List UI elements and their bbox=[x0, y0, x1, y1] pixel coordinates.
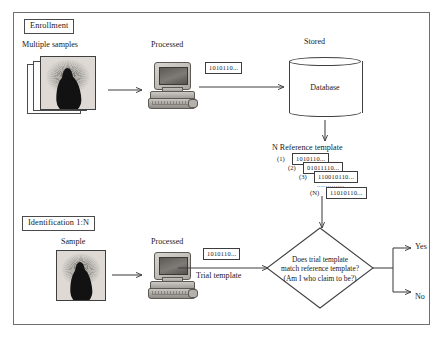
trial-template-binary: 1010110... bbox=[203, 248, 240, 260]
reference-row-index-2: (2) bbox=[288, 165, 296, 172]
multiple-samples-image-stack bbox=[27, 56, 99, 118]
trial-template-caption: Trial template bbox=[196, 272, 241, 280]
monitor-shell bbox=[154, 252, 192, 280]
decision-text-line-2: match reference template? bbox=[281, 265, 359, 272]
identification-sample-caption: Sample bbox=[61, 238, 85, 246]
multiple-samples-caption: Multiple samples bbox=[22, 41, 78, 49]
identification-processed-caption: Processed bbox=[151, 238, 183, 246]
monitor-screen bbox=[159, 67, 187, 86]
enrollment-section-label: Enrollment bbox=[24, 19, 74, 34]
reference-template-heading: N Reference template bbox=[272, 144, 343, 152]
database-label: Database bbox=[289, 83, 361, 92]
reference-template-value-n: 11010110... bbox=[326, 187, 367, 199]
decision-text-line-1: Does trial template bbox=[292, 256, 348, 263]
identification-computer-icon bbox=[148, 252, 196, 302]
decision-yes-label: Yes bbox=[415, 243, 427, 251]
identification-sample-image bbox=[56, 250, 106, 301]
keyboard-keys bbox=[152, 101, 193, 105]
mouse-icon bbox=[188, 289, 197, 298]
reference-row-index-n: (N) bbox=[310, 190, 319, 197]
reference-row-index-3: (3) bbox=[299, 174, 307, 181]
monitor-shell bbox=[154, 62, 192, 90]
enrollment-processed-caption: Processed bbox=[151, 41, 183, 49]
enrollment-template-binary: 1010110... bbox=[205, 62, 242, 74]
monitor-screen bbox=[159, 257, 187, 276]
cylinder-top-ellipse bbox=[289, 57, 361, 66]
diagram-canvas: Enrollment Multiple samples Processed 10… bbox=[0, 0, 446, 338]
keyboard-keys bbox=[152, 291, 193, 295]
stored-caption: Stored bbox=[304, 38, 325, 46]
biometric-sample-image bbox=[40, 56, 96, 110]
decision-no-label: No bbox=[415, 293, 425, 301]
database-cylinder: Database bbox=[289, 57, 361, 117]
enrollment-computer-icon bbox=[148, 62, 196, 112]
identification-section-label: Identification 1:N bbox=[22, 216, 95, 231]
mouse-icon bbox=[188, 99, 197, 108]
reference-row-index-1: (1) bbox=[277, 156, 285, 163]
decision-text-line-3: (Am I who claim to be?) bbox=[284, 275, 357, 282]
